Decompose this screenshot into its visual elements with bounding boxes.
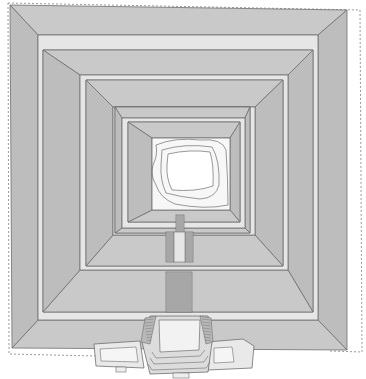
contour-inner xyxy=(167,151,213,191)
entrance-footing-center xyxy=(173,373,189,378)
entrance-wing-right-room xyxy=(214,347,234,363)
stair-mid-left xyxy=(166,232,174,262)
slope-east xyxy=(288,50,313,312)
entrance-wing-left-room xyxy=(100,347,138,362)
slope-west xyxy=(86,80,113,266)
slope-west xyxy=(115,107,122,233)
slope-north xyxy=(115,107,250,118)
slope-west xyxy=(43,50,80,312)
stair-balustrade xyxy=(174,232,185,262)
slope-east xyxy=(230,122,240,222)
stair-body xyxy=(185,232,193,262)
stair-body xyxy=(166,232,174,262)
slope-north xyxy=(10,5,347,35)
stair-lower xyxy=(166,272,192,312)
entrance-court xyxy=(159,320,200,352)
slope-west xyxy=(10,5,38,348)
slope-east xyxy=(245,107,250,233)
diagram-canvas: Stepped pyramid plan (top view) xyxy=(0,0,366,379)
slope-east xyxy=(255,80,283,266)
slope-north xyxy=(43,50,313,75)
stair-mid-right xyxy=(185,232,193,262)
entrance-footing-left xyxy=(116,367,126,372)
pyramid-plan xyxy=(0,0,366,379)
slope-west xyxy=(128,122,152,222)
slope-north xyxy=(86,80,283,107)
slope-east xyxy=(318,10,347,350)
